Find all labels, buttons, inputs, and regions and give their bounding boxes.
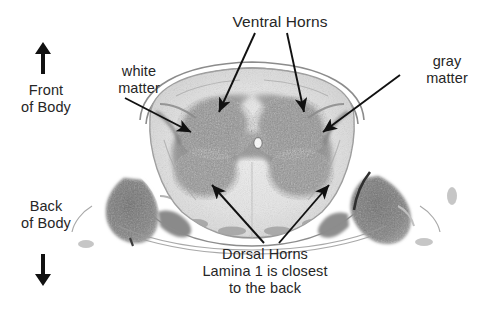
leader-white-matter [125, 98, 191, 132]
label-back-of-body: Back of Body [6, 198, 86, 232]
label-gray-matter: gray matter [404, 53, 490, 87]
label-front-of-body: Front of Body [6, 82, 86, 116]
leader-gray-matter [323, 75, 400, 132]
down-arrow-icon [30, 252, 56, 288]
up-arrow-icon [30, 40, 56, 76]
label-ventral-horns: Ventral Horns [205, 13, 355, 31]
figure-root: Ventral Horns gray matter white matter D… [0, 0, 499, 314]
leader-ventral-horn-right [287, 33, 304, 112]
leader-dorsal-horn-left [212, 185, 264, 243]
leader-dorsal-horn-right [279, 185, 329, 243]
label-dorsal-horns-block: Dorsal Horns Lamina 1 is closest to the … [170, 246, 360, 296]
leader-ventral-horn-left [219, 33, 255, 112]
label-white-matter: white matter [95, 63, 183, 97]
